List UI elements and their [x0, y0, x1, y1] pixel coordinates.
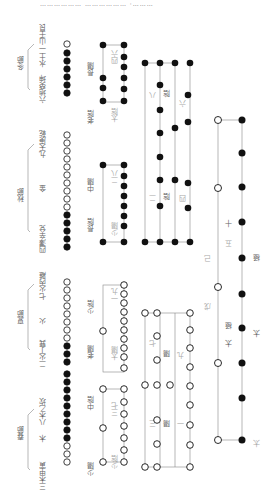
- scanned-page: ……………… ……………… ·……… 冬節 六地癸坤 水土 一山壬艮 秋節 四澤…: [0, 0, 279, 504]
- diagram-graphics: [0, 0, 279, 504]
